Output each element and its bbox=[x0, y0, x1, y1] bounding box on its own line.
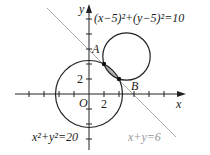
origin-label: O bbox=[79, 96, 88, 110]
point-a-label: A bbox=[91, 42, 100, 56]
line-x-plus-y-eq-6 bbox=[47, 8, 176, 137]
shaded-lens-region bbox=[104, 64, 119, 79]
y-axis-arrow-icon bbox=[86, 4, 92, 13]
intersection-point-4-2 bbox=[117, 77, 121, 81]
x-tick-label-2: 2 bbox=[101, 97, 107, 111]
circle2-equation-label: (x−5)²+(y−5)²=10 bbox=[94, 11, 184, 25]
circle1-equation-label: x²+y²=20 bbox=[31, 130, 78, 144]
point-b-label: B bbox=[131, 79, 139, 93]
x-axis-label: x bbox=[175, 97, 182, 111]
circle-x5-y5-10 bbox=[103, 33, 150, 80]
line-equation-label: x+y=6 bbox=[127, 130, 161, 144]
y-axis-label: y bbox=[78, 2, 85, 16]
intersection-point-2-4 bbox=[102, 62, 106, 66]
y-tick-label-2: 2 bbox=[77, 72, 83, 86]
diagram-canvas: y x O 2 2 A B (x−5)²+(y−5)²=10 x²+y²=20 … bbox=[0, 0, 210, 155]
